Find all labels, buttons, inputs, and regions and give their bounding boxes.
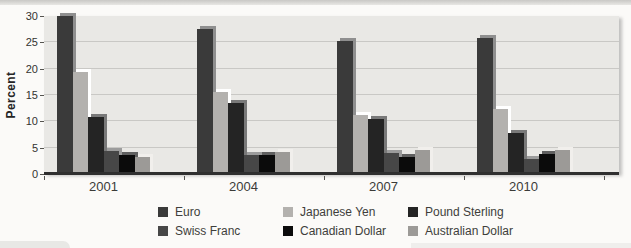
bar-canadian-dollar-2010 (539, 154, 555, 174)
x-tick-mark-3 (464, 176, 465, 180)
bar-swiss-franc-2007 (384, 153, 400, 174)
bar-euro-2010 (477, 38, 493, 174)
y-tick-mark-0 (40, 174, 44, 175)
legend-item-swiss-franc: Swiss Franc (158, 224, 240, 237)
y-tick-mark-5 (40, 148, 44, 149)
plot-area (44, 16, 619, 174)
x-tick-mark-2 (324, 176, 325, 180)
legend-label-canadian-dollar: Canadian Dollar (300, 224, 386, 238)
legend-swatch-euro (158, 207, 168, 217)
y-tick-label-0: 0 (8, 168, 38, 180)
y-tick-label-10: 10 (8, 115, 38, 127)
bar-euro-2001 (57, 16, 73, 174)
x-tick-mark-1 (184, 176, 185, 180)
scan-top-strip (0, 0, 631, 5)
bar-australian-dollar-2004 (275, 152, 291, 174)
legend-label-swiss-franc: Swiss Franc (175, 224, 240, 238)
legend-label-pound-sterling: Pound Sterling (425, 205, 504, 219)
scan-smudge-bottom-left (0, 241, 70, 248)
currency-bar-chart-figure: Percent 2001200420072010051015202530Euro… (0, 0, 631, 248)
x-tick-label-2010: 2010 (477, 179, 570, 194)
x-tick-label-2004: 2004 (197, 179, 290, 194)
legend-item-japanese-yen: Japanese Yen (283, 205, 375, 218)
y-tick-label-30: 30 (8, 10, 38, 22)
bar-japanese-yen-2001 (73, 72, 89, 174)
bar-pound-sterling-2004 (228, 103, 244, 174)
legend-item-canadian-dollar: Canadian Dollar (283, 224, 386, 237)
bar-pound-sterling-2007 (368, 119, 384, 174)
bar-australian-dollar-2007 (415, 150, 431, 174)
bar-euro-2004 (197, 29, 213, 174)
bar-group-2001 (57, 16, 150, 174)
y-tick-label-20: 20 (8, 63, 38, 75)
bar-group-2010 (477, 16, 570, 174)
bar-australian-dollar-2010 (555, 150, 571, 174)
legend-label-euro: Euro (175, 205, 200, 219)
legend-swatch-japanese-yen (283, 207, 293, 217)
bar-japanese-yen-2004 (213, 92, 229, 174)
legend-label-japanese-yen: Japanese Yen (300, 205, 375, 219)
y-tick-label-15: 15 (8, 89, 38, 101)
y-tick-label-5: 5 (8, 142, 38, 154)
x-tick-label-2001: 2001 (57, 179, 150, 194)
y-tick-label-25: 25 (8, 36, 38, 48)
legend-swatch-pound-sterling (408, 207, 418, 217)
x-tick-mark-4 (604, 176, 605, 180)
bar-pound-sterling-2001 (88, 117, 104, 174)
y-tick-mark-15 (40, 95, 44, 96)
legend-item-euro: Euro (158, 205, 200, 218)
bar-group-2007 (337, 16, 430, 174)
bar-japanese-yen-2007 (353, 115, 369, 174)
bar-euro-2007 (337, 41, 353, 174)
y-tick-mark-20 (40, 69, 44, 70)
legend-item-australian-dollar: Australian Dollar (408, 224, 513, 237)
legend-swatch-australian-dollar (408, 226, 418, 236)
y-tick-mark-25 (40, 42, 44, 43)
x-axis-line (44, 172, 619, 175)
legend-swatch-canadian-dollar (283, 226, 293, 236)
scan-smudge-bottom-right (411, 243, 631, 248)
x-tick-mark-0 (44, 176, 45, 180)
bar-pound-sterling-2010 (508, 133, 524, 174)
y-tick-mark-10 (40, 121, 44, 122)
legend-label-australian-dollar: Australian Dollar (425, 224, 513, 238)
bar-group-2004 (197, 16, 290, 174)
bar-swiss-franc-2001 (104, 151, 120, 174)
legend-item-pound-sterling: Pound Sterling (408, 205, 504, 218)
legend-swatch-swiss-franc (158, 226, 168, 236)
y-tick-mark-30 (40, 16, 44, 17)
bar-japanese-yen-2010 (493, 109, 509, 174)
x-tick-label-2007: 2007 (337, 179, 430, 194)
